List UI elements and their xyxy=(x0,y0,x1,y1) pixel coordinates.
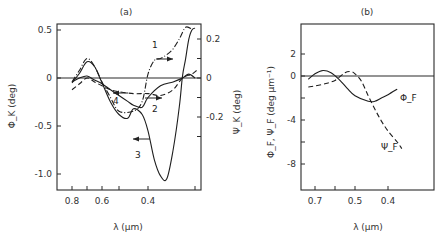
y-tick-label-left-a: -0.5 xyxy=(34,121,52,131)
y-axis-label-right-a: Ψ_K (deg) xyxy=(232,90,242,134)
x-tick-label-a: 0.8 xyxy=(65,196,80,206)
y-axis-label-left-a: Φ_K (deg) xyxy=(7,84,17,128)
y-tick-label-b: -8 xyxy=(287,159,296,169)
x-tick-label-b: 0.4 xyxy=(381,196,396,206)
plot-frame-b xyxy=(301,24,434,190)
y-tick-label-left-a: 0 xyxy=(46,73,52,83)
panel-a: 0.80.60.40.50-0.5-1.00.20-0.21234(a)λ (μ… xyxy=(7,7,242,232)
series-b-psi-f xyxy=(308,71,402,148)
arrow-right-1 xyxy=(156,57,173,62)
curve-label-2: 2 xyxy=(152,104,158,114)
panel-b: 0.70.50.420-4-8Φ_FΨ_F(b)λ (μm)Φ_F, Ψ_F (… xyxy=(266,7,434,232)
arrow-left-3 xyxy=(133,137,150,142)
x-axis-label-b: λ (μm) xyxy=(353,222,383,232)
y-tick-label-b: 0 xyxy=(290,71,296,81)
curve-label-psi-f: Ψ_F xyxy=(381,142,398,152)
x-tick-label-a: 0.6 xyxy=(95,196,110,206)
panel-b-title: (b) xyxy=(361,7,374,17)
y-tick-label-right-a: -0.2 xyxy=(206,112,224,122)
panel-a-title: (a) xyxy=(120,7,133,17)
series-a-3 xyxy=(72,28,195,181)
y-tick-label-right-a: 0 xyxy=(206,73,212,83)
series-a-2 xyxy=(72,70,197,95)
y-tick-label-left-a: -1.0 xyxy=(34,169,52,179)
curve-label-4: 4 xyxy=(113,96,119,106)
curve-label-phi-f: Φ_F xyxy=(400,93,417,103)
y-axis-label-b: Φ_F, Ψ_F (deg μm⁻¹) xyxy=(266,66,276,158)
series-a-1 xyxy=(72,27,192,113)
series-b-phi-f xyxy=(308,70,397,101)
x-tick-label-a: 0.4 xyxy=(141,196,156,206)
arrow-right-2 xyxy=(145,96,162,101)
x-tick-label-b: 0.7 xyxy=(308,196,322,206)
x-axis-label-a: λ (μm) xyxy=(113,222,143,232)
x-tick-label-b: 0.5 xyxy=(348,196,362,206)
series-a-4 xyxy=(72,74,195,108)
curve-label-1: 1 xyxy=(152,40,158,50)
y-tick-label-right-a: 0.2 xyxy=(206,34,220,44)
y-tick-label-b: -4 xyxy=(287,115,296,125)
y-tick-label-left-a: 0.5 xyxy=(38,25,52,35)
figure: 0.80.60.40.50-0.5-1.00.20-0.21234(a)λ (μ… xyxy=(0,0,444,244)
y-tick-label-b: 2 xyxy=(290,49,296,59)
curve-label-3: 3 xyxy=(135,150,141,160)
